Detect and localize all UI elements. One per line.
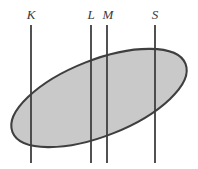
line-label-l: L bbox=[87, 8, 94, 21]
line-label-m: M bbox=[103, 8, 114, 21]
figure-canvas: K L M S bbox=[0, 0, 198, 169]
line-label-k: K bbox=[27, 8, 36, 21]
diagram-svg bbox=[0, 0, 198, 169]
line-label-s: S bbox=[152, 8, 159, 21]
